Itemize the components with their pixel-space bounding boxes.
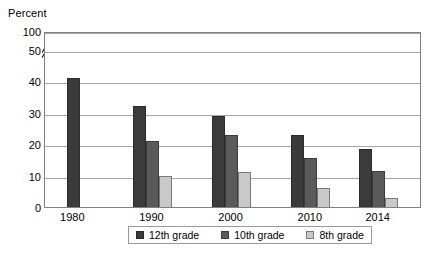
bar-group: [359, 33, 398, 207]
y-tick-label: 0: [1, 202, 41, 214]
legend-item: 8th grade: [306, 229, 363, 241]
y-tick-label: 100: [1, 26, 41, 38]
legend-label: 8th grade: [319, 229, 363, 241]
legend-swatch-icon: [221, 231, 229, 239]
y-tick-label: 30: [1, 108, 41, 120]
bar: [159, 176, 172, 207]
legend-swatch-icon: [306, 231, 314, 239]
legend-item: 10th grade: [221, 229, 284, 241]
legend-item: 12th grade: [136, 229, 199, 241]
x-tick-label: 1990: [139, 211, 163, 223]
bar: [146, 141, 159, 207]
bar-group: [291, 33, 330, 207]
legend-swatch-icon: [136, 231, 144, 239]
legend-label: 10th grade: [234, 229, 284, 241]
bar: [359, 149, 372, 207]
bar: [317, 188, 330, 207]
bar-group: [67, 33, 80, 207]
bar: [225, 135, 238, 207]
y-tick-label: 40: [1, 76, 41, 88]
x-tick-label: 2000: [218, 211, 242, 223]
bar: [372, 171, 385, 207]
plot-area: [44, 32, 421, 208]
bar: [385, 198, 398, 207]
bar: [212, 116, 225, 207]
y-tick-label: 10: [1, 171, 41, 183]
bar: [291, 135, 304, 207]
bar-chart: Percent 01020304050100 19801990200020102…: [0, 0, 446, 260]
bar: [133, 106, 146, 207]
x-tick-label: 1980: [60, 211, 84, 223]
bar-group: [212, 33, 251, 207]
bar: [304, 158, 317, 207]
x-tick-label: 2014: [365, 211, 389, 223]
bar-group: [133, 33, 172, 207]
bar: [67, 78, 80, 207]
x-tick-label: 2010: [298, 211, 322, 223]
y-tick-label: 20: [1, 139, 41, 151]
y-tick-label: 50: [1, 45, 41, 57]
bar: [238, 172, 251, 207]
y-axis-tick-labels: 01020304050100: [0, 0, 41, 260]
chart-legend: 12th grade10th grade8th grade: [128, 226, 372, 244]
legend-label: 12th grade: [149, 229, 199, 241]
